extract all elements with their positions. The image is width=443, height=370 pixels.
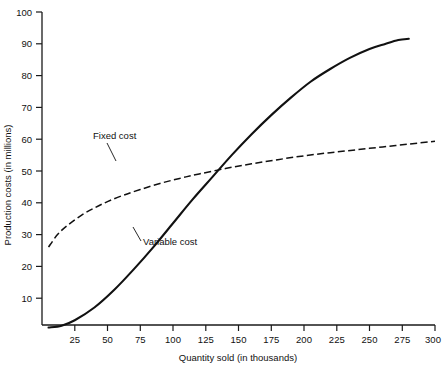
y-tick-label-40: 40 (21, 197, 32, 208)
x-tick-label-50: 50 (102, 334, 113, 345)
x-tick-label-200: 200 (296, 334, 312, 345)
x-tick-label-275: 275 (394, 334, 410, 345)
x-axis-tick-labels: 25 50 75 100 125 150 175 200 225 250 275… (70, 334, 441, 345)
y-tick-label-70: 70 (21, 102, 32, 113)
variable-cost-label: Variable cost (143, 236, 198, 247)
x-tick-label-125: 125 (198, 334, 214, 345)
y-tick-label-60: 60 (21, 134, 32, 145)
y-tick-label-50: 50 (21, 166, 32, 177)
y-axis-ticks (36, 12, 42, 298)
y-tick-label-100: 100 (16, 7, 32, 18)
x-axis: 25 50 75 100 125 150 175 200 225 250 275… (42, 325, 441, 363)
chart-canvas: 100 90 80 70 60 50 40 30 20 10 Productio… (0, 0, 443, 370)
x-axis-title: Quantity sold (in thousands) (179, 352, 297, 363)
variable-cost-leader-line (133, 227, 141, 241)
variable-cost-curve (49, 39, 409, 328)
fixed-cost-curve (49, 141, 435, 247)
annotation-fixed-cost: Fixed cost (93, 130, 137, 161)
x-tick-label-25: 25 (70, 334, 81, 345)
x-tick-label-150: 150 (231, 334, 247, 345)
x-tick-label-75: 75 (135, 334, 146, 345)
production-cost-chart: 100 90 80 70 60 50 40 30 20 10 Productio… (0, 0, 443, 370)
y-axis-tick-labels: 100 90 80 70 60 50 40 30 20 10 (16, 7, 32, 304)
fixed-cost-leader-line (107, 143, 116, 161)
x-tick-label-250: 250 (362, 334, 378, 345)
x-tick-label-300: 300 (425, 334, 441, 345)
x-tick-label-100: 100 (165, 334, 181, 345)
fixed-cost-label: Fixed cost (93, 130, 137, 141)
y-axis: 100 90 80 70 60 50 40 30 20 10 Productio… (2, 7, 42, 326)
x-tick-label-175: 175 (263, 334, 279, 345)
annotation-variable-cost: Variable cost (133, 227, 198, 247)
x-tick-label-225: 225 (329, 334, 345, 345)
y-tick-label-20: 20 (21, 261, 32, 272)
x-axis-ticks (75, 325, 435, 331)
y-tick-label-30: 30 (21, 229, 32, 240)
y-axis-title: Production costs (in millions) (2, 125, 13, 246)
y-tick-label-10: 10 (21, 293, 32, 304)
y-tick-label-80: 80 (21, 70, 32, 81)
y-tick-label-90: 90 (21, 38, 32, 49)
series-group (49, 39, 435, 328)
